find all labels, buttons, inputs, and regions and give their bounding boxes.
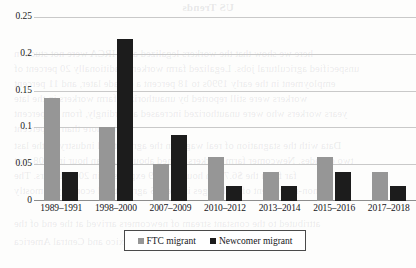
bar-group xyxy=(34,17,89,201)
bar xyxy=(281,186,297,201)
bar-group xyxy=(361,17,416,201)
y-axis-tick-label: 0 xyxy=(2,195,32,205)
bleed-line: attributed to the constant stream of new… xyxy=(14,218,320,229)
legend-item: FTC migrant xyxy=(138,236,196,246)
bar xyxy=(263,172,279,201)
x-axis-labels: 1989–19911998–20002007–20092010–20122013… xyxy=(34,203,416,213)
bar xyxy=(335,172,351,201)
bar xyxy=(62,172,78,201)
bar xyxy=(153,164,169,201)
legend-label: FTC migrant xyxy=(147,236,196,246)
x-axis-tick-label: 1989–1991 xyxy=(34,203,89,213)
y-axis-tick-label: 0.15 xyxy=(2,85,32,95)
bar-chart-figure: US Trends here we show that the workers … xyxy=(0,0,416,268)
x-axis-tick-label: 2007–2009 xyxy=(143,203,198,213)
legend-label: Newcomer migrant xyxy=(219,236,293,246)
x-axis-tick-label: 2017–2018 xyxy=(361,203,416,213)
y-axis-tick-label: 0.05 xyxy=(2,158,32,168)
chart-legend: FTC migrantNewcomer migrant xyxy=(124,230,306,251)
bar-group xyxy=(198,17,253,201)
bar xyxy=(99,127,115,201)
bar-group xyxy=(252,17,307,201)
bar-groups xyxy=(34,17,416,201)
bar xyxy=(171,135,187,201)
bar xyxy=(44,98,60,201)
gray-square-marker xyxy=(138,238,144,244)
y-axis-tick-label: 0.1 xyxy=(2,121,32,131)
bar xyxy=(226,186,242,201)
black-square-marker xyxy=(210,238,216,244)
y-axis-tick-label: 0.2 xyxy=(2,48,32,58)
x-axis-tick-label: 2010–2012 xyxy=(198,203,253,213)
bleed-title: US Trends xyxy=(0,1,416,13)
x-axis-tick-label: 1998–2000 xyxy=(89,203,144,213)
y-axis-tick-label: 0.25 xyxy=(2,11,32,21)
bar xyxy=(117,39,133,201)
x-axis-tick-label: 2013–2014 xyxy=(252,203,307,213)
legend-item: Newcomer migrant xyxy=(210,236,293,246)
bar xyxy=(390,186,406,201)
bar-group xyxy=(89,17,144,201)
bar xyxy=(317,157,333,201)
bar xyxy=(208,157,224,201)
bar-group xyxy=(307,17,362,201)
bar xyxy=(372,172,388,201)
y-axis-ticks: 00.050.10.150.20.25 xyxy=(0,17,32,201)
bar-group xyxy=(143,17,198,201)
x-axis-tick-label: 2015–2016 xyxy=(307,203,362,213)
